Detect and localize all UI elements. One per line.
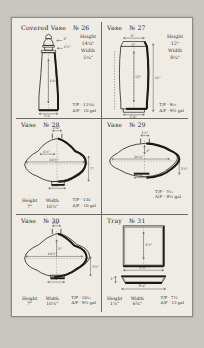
- svg-text:10½": 10½": [48, 252, 58, 256]
- svg-text:5": 5": [58, 248, 62, 252]
- spec-width: Width 10½": [46, 296, 59, 307]
- svg-text:5¼": 5¼": [44, 114, 51, 117]
- code-af: A/F · 9½ gal: [159, 108, 184, 114]
- spec-label-width: Width: [168, 48, 182, 53]
- spec-value-height: 1½": [107, 301, 122, 307]
- svg-text:7": 7": [90, 166, 94, 170]
- dim-label: 4": [63, 37, 67, 41]
- svg-text:2¼": 2¼": [53, 126, 60, 130]
- svg-text:11": 11": [155, 76, 161, 80]
- vase-29-codes: T/P · 7⁄₁₀ A/F · 8¼ gal: [155, 189, 181, 201]
- svg-text:6¼": 6¼": [139, 285, 147, 289]
- drawing-cell-vase-27: Vase№ 27: [102, 22, 188, 119]
- spec-value-height: 12": [171, 41, 179, 46]
- svg-text:10½": 10½": [49, 157, 59, 161]
- svg-text:4½": 4½": [145, 243, 153, 247]
- code-af: A/F · 10 gal: [73, 203, 96, 209]
- svg-text:4½": 4½": [139, 266, 147, 270]
- svg-text:3½": 3½": [92, 266, 99, 270]
- svg-text:4½": 4½": [64, 45, 71, 49]
- spec-height: Height 7": [22, 296, 37, 307]
- spec-height: Height 1½": [107, 296, 122, 307]
- svg-text:5¼": 5¼": [130, 115, 138, 118]
- svg-text:10¼": 10¼": [134, 154, 144, 158]
- spec-width: Width 10½": [46, 198, 59, 209]
- spec-value-height: 7": [22, 301, 37, 307]
- spec-label-height: Height: [80, 34, 96, 39]
- catalogue-page: Covered Vase№ 26: [11, 17, 193, 317]
- vase-26-codes: T/P · 11½⁄₆ A/F · 10 gal: [73, 102, 96, 113]
- spec-value-width: 5¼": [83, 55, 93, 60]
- spec-value-width: 10½": [46, 301, 59, 307]
- vase-28-codes: T/P · 13⁄₆ A/F · 10 gal: [73, 197, 96, 208]
- drawing-cell-tray-31: Tray№ 31: [102, 215, 188, 312]
- svg-text:3½": 3½": [181, 166, 188, 170]
- spec-height: Height 7": [22, 198, 37, 209]
- vase-26-specs: Height 14¾" Width 5¼": [80, 34, 96, 62]
- vase-28-specs: Height 7" Width 10½": [22, 198, 59, 209]
- svg-text:4": 4": [146, 148, 150, 152]
- vase-27-specs: Height 12" Width 8¼": [167, 34, 183, 62]
- svg-text:3": 3": [131, 43, 135, 47]
- svg-text:1": 1": [110, 278, 114, 282]
- tray-31-specs: Height 1½" Width 6¾": [107, 296, 144, 307]
- svg-text:3¼": 3¼": [136, 173, 144, 177]
- drawing-cell-vase-28: Vase№ 28: [16, 119, 102, 216]
- spec-value-width: 6¾": [131, 301, 144, 307]
- drawing-grid: Covered Vase№ 26: [16, 22, 188, 312]
- svg-text:2¼": 2¼": [52, 222, 59, 226]
- drawing-cell-vase-26: Covered Vase№ 26: [16, 22, 102, 119]
- spec-label-height: Height: [167, 34, 183, 39]
- svg-text:3½": 3½": [52, 183, 59, 187]
- spec-value-width: 8¼": [170, 55, 180, 60]
- vase-30-codes: T/P · 10⁄₁₂ A/F · 9½ gal: [71, 295, 96, 306]
- svg-text:3¼": 3¼": [51, 278, 58, 282]
- spec-label-width: Width: [81, 48, 95, 53]
- svg-text:1½": 1½": [141, 131, 149, 135]
- code-af: A/F · 13 gal: [161, 300, 184, 306]
- spec-value-width: 10½": [46, 204, 59, 210]
- svg-text:12": 12": [135, 75, 141, 79]
- svg-text:14¾": 14¾": [50, 79, 60, 83]
- code-af: A/F · 10 gal: [73, 108, 96, 114]
- vase-27-codes: T/P · 9⁄₁₀ A/F · 9½ gal: [159, 102, 184, 113]
- vase-30-specs: Height 7" Width 10½": [22, 296, 59, 307]
- spec-width: Width 6¾": [131, 296, 144, 307]
- spec-value-height: 7": [22, 204, 37, 210]
- spec-value-height: 14¾": [82, 41, 94, 46]
- tray-31-codes: T/P · 7½ A/F · 13 gal: [161, 295, 184, 306]
- svg-text:4½": 4½": [43, 149, 50, 153]
- code-af: A/F · 9½ gal: [71, 300, 96, 306]
- svg-text:4": 4": [131, 34, 135, 38]
- code-af: A/F · 8¼ gal: [155, 194, 181, 200]
- drawing-cell-vase-30: Vase№ 30: [16, 215, 102, 312]
- drawing-cell-vase-29: Vase№ 29: [102, 119, 188, 216]
